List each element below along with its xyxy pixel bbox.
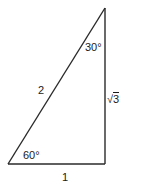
hypotenuse-label: 2 (38, 85, 44, 96)
horizontal-leg-label: 1 (62, 172, 68, 183)
angle-label-top: 30° (85, 42, 102, 53)
triangle-diagram (0, 0, 145, 187)
angle-label-bottom-left: 60° (23, 150, 40, 161)
vertical-leg-label: √3 (107, 94, 119, 105)
radicand: 3 (113, 92, 119, 105)
hypotenuse-line (8, 8, 105, 164)
